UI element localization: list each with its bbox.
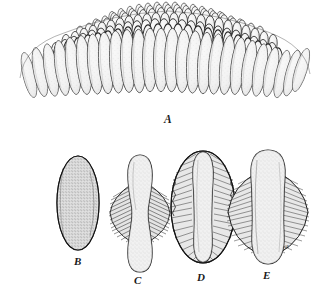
figure-e-body	[251, 150, 285, 264]
figure-label-e: E	[263, 270, 270, 281]
figure-label-c: C	[134, 275, 141, 286]
illustration-artwork	[0, 0, 329, 296]
figure-label-a: A	[164, 114, 172, 126]
figure-d-body	[193, 152, 213, 262]
figure-label-b: B	[74, 256, 81, 267]
figure-d-capsule	[171, 151, 235, 263]
figure-b-capsule	[57, 156, 99, 250]
illustration-plate: A B C D E ce	[0, 0, 329, 296]
figure-e-capsule	[227, 150, 309, 264]
figure-a-egg-mass	[18, 2, 313, 99]
figure-c-capsule	[109, 155, 171, 272]
figure-c-body	[128, 155, 152, 272]
figure-label-d: D	[197, 272, 205, 283]
